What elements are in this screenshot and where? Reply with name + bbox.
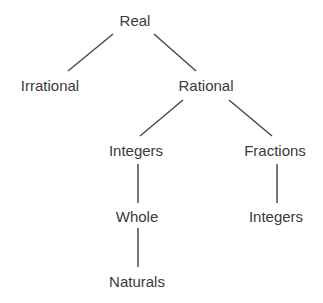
number-classification-tree: Real Irrational Rational Integers Fracti… <box>0 0 323 303</box>
node-naturals: Naturals <box>109 273 165 290</box>
node-integers: Integers <box>109 142 163 159</box>
edge-rational-integers <box>140 100 183 136</box>
node-rational: Rational <box>178 77 233 94</box>
node-fractions: Fractions <box>244 142 306 159</box>
node-real: Real <box>120 12 151 29</box>
node-irrational: Irrational <box>21 77 79 94</box>
edge-real-irrational <box>68 34 113 71</box>
node-fraction-integers: Integers <box>249 208 303 225</box>
edge-rational-fractions <box>229 100 272 136</box>
node-whole: Whole <box>116 208 159 225</box>
edge-real-rational <box>154 34 196 71</box>
